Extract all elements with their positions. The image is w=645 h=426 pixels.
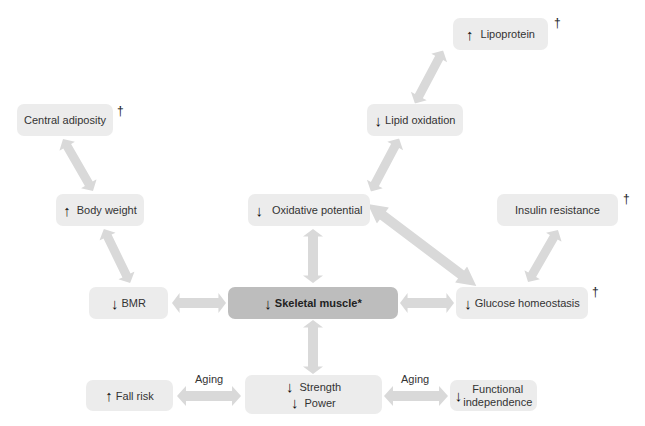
connector-lipid-lipoprotein [407,46,451,107]
node-insulin-resistance: Insulin resistance [497,194,618,226]
node-label: BMR [122,297,146,309]
connector-bodyweight-bmr [96,225,138,287]
up-arrow-icon: ↑ [63,203,71,218]
skeletal-muscle-diagram: ↑ Lipoprotein † ↓ Lipid oxidation Centra… [0,0,645,426]
node-label: Power [305,397,336,409]
aging-label-right: Aging [401,373,429,385]
node-glucose-homeostasis: ↓ Glucose homeostasis [456,287,588,319]
node-label: Skeletal muscle* [275,297,362,309]
down-arrow-icon: ↓ [291,395,299,410]
down-arrow-icon: ↓ [375,113,383,128]
node-strength-power: ↓ Strength ↓ Power [245,375,382,414]
up-arrow-icon: ↑ [466,27,474,42]
dagger-mark: † [554,16,561,30]
node-label: Functional independence [463,383,532,409]
node-label-line2: independence [463,396,532,409]
power-row: ↓ Power [291,395,336,410]
node-label: Fall risk [116,390,154,402]
node-bmr: ↓ BMR [89,287,168,319]
node-label: Body weight [77,204,137,216]
connector-oxidative-glucose [362,196,483,294]
connector-bmr-muscle [172,293,226,313]
node-label: Central adiposity [24,114,106,126]
dagger-mark: † [117,104,124,118]
node-functional-independence: ↓ Functional independence [450,380,537,411]
connector-glucose-insulin [520,226,566,287]
node-lipid-oxidation: ↓ Lipid oxidation [367,104,463,136]
down-arrow-icon: ↓ [455,388,463,403]
dagger-mark: † [592,285,599,299]
node-central-adiposity: Central adiposity [17,104,113,136]
connector-oxidative-lipid [363,134,407,195]
connector-adiposity-bodyweight [55,135,101,196]
down-arrow-icon: ↓ [264,296,272,311]
node-label: Strength [300,381,342,393]
connector-strength-fallrisk [177,386,241,406]
node-label: Lipoprotein [481,28,535,40]
node-body-weight: ↑ Body weight [56,194,144,226]
node-label: Insulin resistance [515,204,600,216]
down-arrow-icon: ↓ [286,379,294,394]
down-arrow-icon: ↓ [111,296,119,311]
connector-strength-independence [384,386,448,406]
node-label: Glucose homeostasis [475,297,580,309]
dagger-mark: † [623,192,630,206]
aging-label-left: Aging [195,373,223,385]
node-skeletal-muscle: ↓ Skeletal muscle* [228,287,398,319]
node-label-line1: Functional [472,383,523,396]
connector-oxidative-muscle [303,229,323,283]
node-label: Oxidative potential [272,204,363,216]
connector-muscle-glucose [400,293,454,313]
up-arrow-icon: ↑ [105,388,113,403]
down-arrow-icon: ↓ [256,203,264,218]
strength-row: ↓ Strength [286,379,341,394]
node-oxidative-potential: ↓ Oxidative potential [248,194,370,226]
node-lipoprotein: ↑ Lipoprotein [453,18,548,50]
down-arrow-icon: ↓ [464,296,472,311]
connector-muscle-strength [303,320,323,374]
node-fall-risk: ↑ Fall risk [86,380,173,411]
node-label: Lipid oxidation [385,114,455,126]
